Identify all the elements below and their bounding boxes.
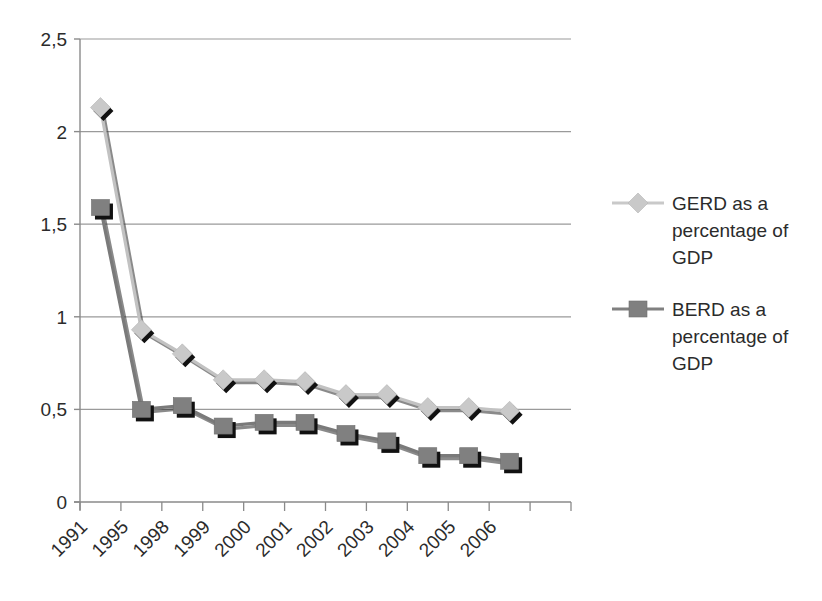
data-point-marker — [255, 414, 273, 430]
data-point-marker — [337, 425, 355, 441]
y-axis-tick-label: 0,5 — [41, 399, 67, 420]
chart-container: 00,511,522,5 199119951998199920002001200… — [0, 0, 822, 601]
legend-label: percentage of — [672, 220, 789, 241]
data-point-marker — [132, 401, 150, 417]
legend-label: GDP — [672, 247, 713, 268]
data-point-marker — [419, 448, 437, 464]
y-axis-tick-label: 1,5 — [41, 214, 67, 235]
data-point-marker — [214, 418, 232, 434]
y-axis-tick-label: 0 — [56, 492, 67, 513]
data-point-marker — [460, 448, 478, 464]
legend-label: GDP — [672, 353, 713, 374]
data-point-marker — [296, 414, 314, 430]
y-axis-tick-label: 1 — [56, 307, 67, 328]
legend-label: percentage of — [672, 326, 789, 347]
legend-label: BERD as a — [672, 299, 766, 320]
square-marker-icon — [629, 301, 647, 317]
data-point-marker — [501, 453, 519, 469]
y-axis-tick-label: 2,5 — [41, 29, 67, 50]
line-chart: 00,511,522,5 199119951998199920002001200… — [0, 0, 822, 601]
data-point-marker — [173, 398, 191, 414]
y-axis-tick-label: 2 — [56, 122, 67, 143]
data-point-marker — [378, 433, 396, 449]
legend-label: GERD as a — [672, 193, 769, 214]
data-point-marker — [91, 200, 109, 216]
